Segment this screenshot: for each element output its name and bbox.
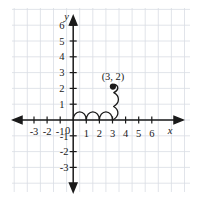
y-tick-label-2: 2: [59, 83, 64, 94]
x-axis-arrow-right-icon: [174, 116, 183, 123]
x-tick-label-2: 2: [97, 128, 102, 139]
x-tick-label-5: 5: [136, 128, 141, 139]
coordinate-plane-svg: -3 -2 -1 0 1 2 3 4 5 6 x 1 2 3 4 5 6 -1 …: [0, 0, 202, 205]
y-tick-label-5: 5: [59, 36, 64, 47]
y-tick-label-neg3: -3: [60, 162, 69, 173]
y-tick-label-neg1: -1: [60, 131, 69, 142]
point-annotation-label: (3, 2): [102, 71, 125, 83]
y-tick-label-neg2: -2: [60, 146, 69, 157]
x-tick-label-4: 4: [123, 128, 129, 139]
x-tick-label-neg2: -2: [43, 126, 52, 137]
y-tick-label-1: 1: [59, 99, 64, 110]
y-axis-arrow-down-icon: [70, 183, 77, 192]
x-tick-label-3: 3: [110, 128, 115, 139]
x-tick-label-1: 1: [84, 128, 89, 139]
grid-lines: [12, 8, 190, 192]
plotted-point-marker: [110, 84, 116, 90]
y-axis-label: y: [63, 11, 69, 22]
y-tick-label-4: 4: [59, 51, 65, 62]
y-tick-label-3: 3: [59, 67, 64, 78]
x-tick-label-neg3: -3: [30, 126, 39, 137]
y-axis-arrow-up-icon: [70, 16, 77, 25]
x-tick-label-6: 6: [149, 128, 154, 139]
x-axis-label: x: [167, 125, 173, 136]
graph-figure: -3 -2 -1 0 1 2 3 4 5 6 x 1 2 3 4 5 6 -1 …: [0, 0, 202, 205]
